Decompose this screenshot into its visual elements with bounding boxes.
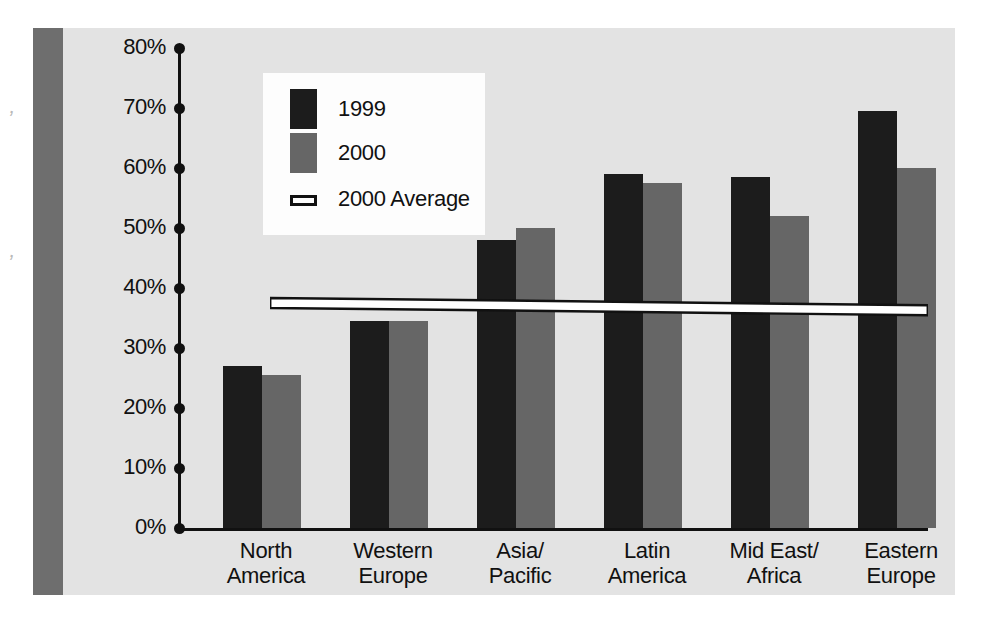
bar-1999-0 — [223, 366, 262, 528]
y-axis-tick-dot — [174, 103, 185, 114]
bar-2000-2 — [516, 228, 555, 528]
bar-2000-1 — [389, 321, 428, 528]
category-label-line: Eastern — [826, 538, 976, 563]
legend-label: 2000 — [338, 140, 386, 166]
bar-1999-2 — [477, 240, 516, 528]
scan-artifact-mark: ’ — [6, 252, 15, 275]
page-canvas: ’ ’ 80%70%60%50%40%30%20%10%0% NorthAmer… — [0, 0, 990, 629]
average-reference-line — [270, 296, 928, 317]
category-label-line: Europe — [826, 563, 976, 588]
legend-item-1999: 1999 — [290, 87, 386, 131]
y-axis-tick-dot — [174, 163, 185, 174]
bar-1999-4 — [731, 177, 770, 528]
bar-2000-3 — [643, 183, 682, 528]
bar-2000-0 — [262, 375, 301, 528]
y-axis-tick-label: 50% — [70, 214, 166, 240]
y-axis-tick-dot — [174, 403, 185, 414]
left-edge-band — [33, 28, 63, 595]
y-axis-labels: 80%70%60%50%40%30%20%10%0% — [63, 28, 166, 595]
y-axis-tick-dot — [174, 523, 185, 534]
y-axis-tick-dot — [174, 343, 185, 354]
bar-2000-4 — [770, 216, 809, 528]
y-axis-tick-dot — [174, 43, 185, 54]
legend-item-2000-average: 2000 Average — [290, 177, 470, 221]
y-axis-tick-dot — [174, 223, 185, 234]
y-axis-tick-label: 20% — [70, 394, 166, 420]
bar-2000-5 — [897, 168, 936, 528]
legend-item-2000: 2000 — [290, 131, 386, 175]
y-axis-tick-label: 0% — [70, 514, 166, 540]
y-axis-tick-label: 60% — [70, 154, 166, 180]
y-axis-tick-dot — [174, 283, 185, 294]
x-axis-line — [178, 528, 928, 531]
y-axis-tick-label: 70% — [70, 94, 166, 120]
plot-area: 80%70%60%50%40%30%20%10%0% NorthAmericaW… — [63, 28, 955, 595]
legend-label: 2000 Average — [338, 186, 470, 212]
bar-1999-5 — [858, 111, 897, 528]
gray-square-swatch-icon — [290, 133, 317, 173]
bar-1999-3 — [604, 174, 643, 528]
y-axis-tick-label: 30% — [70, 334, 166, 360]
chart-panel: 80%70%60%50%40%30%20%10%0% NorthAmericaW… — [33, 28, 955, 595]
legend-label: 1999 — [338, 96, 386, 122]
y-axis-tick-label: 40% — [70, 274, 166, 300]
dark-square-swatch-icon — [290, 89, 317, 129]
white-line-swatch-icon — [290, 195, 317, 206]
y-axis-tick-label: 10% — [70, 454, 166, 480]
scan-artifact-mark: ’ — [6, 108, 15, 131]
category-label-5: EasternEurope — [826, 538, 976, 588]
y-axis-tick-dot — [174, 463, 185, 474]
bar-1999-1 — [350, 321, 389, 528]
chart-legend: 1999 2000 2000 Average — [263, 73, 485, 235]
y-axis-tick-label: 80% — [70, 34, 166, 60]
